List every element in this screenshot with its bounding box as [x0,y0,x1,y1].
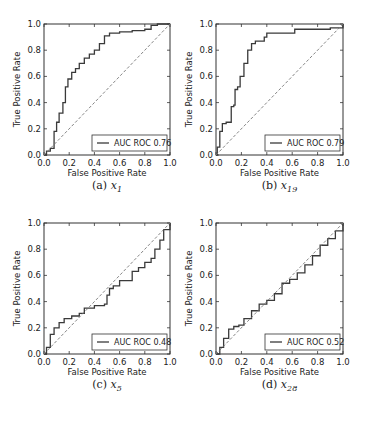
roc-chart-d: 0.00.20.40.60.81.00.00.20.40.60.81.0Fals… [0,0,366,421]
x-tick-label: 1.0 [336,357,350,367]
y-tick-label: 0.2 [199,323,213,333]
x-tick-label: 0.8 [311,357,325,367]
y-tick-label: 0.4 [199,297,213,307]
x-axis-label: False Positive Rate [240,367,319,377]
y-tick-label: 1.0 [199,218,213,228]
x-tick-label: 0.4 [260,357,274,367]
x-tick-label: 0.2 [235,357,249,367]
y-axis-label: True Positive Rate [184,251,194,328]
y-tick-label: 0.8 [199,244,213,254]
subfigure-caption-d: (d) x28 [200,378,360,393]
y-tick-label: 0.0 [199,349,213,359]
y-tick-label: 0.6 [199,270,213,280]
x-tick-label: 0.6 [285,357,299,367]
legend-label: AUC ROC 0.52 [287,338,344,347]
